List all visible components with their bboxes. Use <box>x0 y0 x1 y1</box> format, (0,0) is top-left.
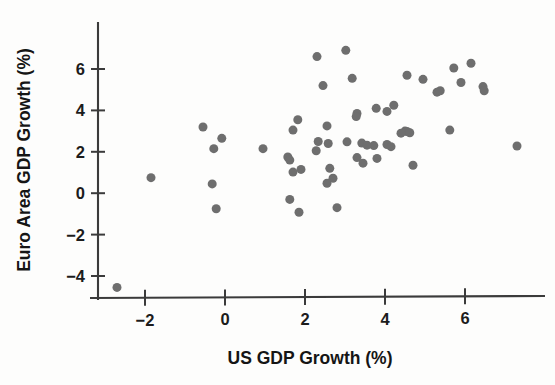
data-point <box>449 63 458 72</box>
data-point <box>325 164 334 173</box>
x-axis-title: US GDP Growth (%) <box>228 348 393 368</box>
data-point <box>341 46 350 55</box>
y-tick-label--4: −4 <box>66 267 86 285</box>
data-point <box>372 104 381 113</box>
data-point <box>147 173 156 182</box>
data-point <box>314 137 323 146</box>
data-point <box>259 144 268 153</box>
data-point <box>389 101 398 110</box>
x-tick-label-0: 0 <box>220 310 229 328</box>
data-point <box>403 71 412 80</box>
y-tick-label-4: 4 <box>76 101 86 119</box>
axis-labels-group: −4−20246−20246US GDP Growth (%)Euro Area… <box>14 48 470 368</box>
data-point <box>445 126 454 135</box>
data-point <box>209 144 218 153</box>
data-point <box>352 112 361 121</box>
data-point <box>295 208 304 217</box>
data-point <box>293 115 302 124</box>
data-point <box>212 204 221 213</box>
data-point <box>333 203 342 212</box>
data-point <box>409 161 418 170</box>
data-point <box>457 78 466 87</box>
data-point <box>297 165 306 174</box>
x-axis-line <box>90 296 545 298</box>
y-tick-label-6: 6 <box>76 60 85 78</box>
data-point <box>387 142 396 151</box>
x-tick-label-4: 4 <box>380 310 390 328</box>
plot-canvas: −4−20246−20246US GDP Growth (%)Euro Area… <box>0 0 555 385</box>
data-point <box>359 159 368 168</box>
data-point <box>208 179 217 188</box>
data-point <box>419 75 428 84</box>
data-point <box>324 139 333 148</box>
x-tick-label-2: 2 <box>300 310 309 328</box>
axes-group <box>90 22 545 306</box>
data-point <box>319 81 328 90</box>
data-point <box>199 122 208 131</box>
data-point <box>513 142 522 151</box>
data-point <box>397 129 406 138</box>
data-point <box>285 156 294 165</box>
y-tick-label--2: −2 <box>66 226 85 244</box>
data-point <box>285 195 294 204</box>
x-tick-label--2: −2 <box>136 311 155 329</box>
data-point <box>313 52 322 61</box>
data-point <box>480 86 489 95</box>
data-point <box>436 86 445 95</box>
data-point <box>217 134 226 143</box>
data-point <box>363 141 372 150</box>
data-points-group <box>113 46 522 292</box>
data-point <box>405 128 414 137</box>
data-point <box>348 74 357 83</box>
y-axis-title: Euro Area GDP Growth (%) <box>14 48 34 272</box>
data-point <box>113 283 122 292</box>
y-tick-label-0: 0 <box>76 184 85 202</box>
data-point <box>289 126 298 135</box>
scatter-chart: −4−20246−20246US GDP Growth (%)Euro Area… <box>0 0 555 385</box>
data-point <box>467 59 476 68</box>
data-point <box>289 168 298 177</box>
data-point <box>312 146 321 155</box>
data-point <box>323 179 332 188</box>
y-tick-label-2: 2 <box>76 143 85 161</box>
data-point <box>323 121 332 130</box>
data-point <box>383 107 392 116</box>
x-tick-label-6: 6 <box>460 309 469 327</box>
data-point <box>373 154 382 163</box>
data-point <box>343 137 352 146</box>
